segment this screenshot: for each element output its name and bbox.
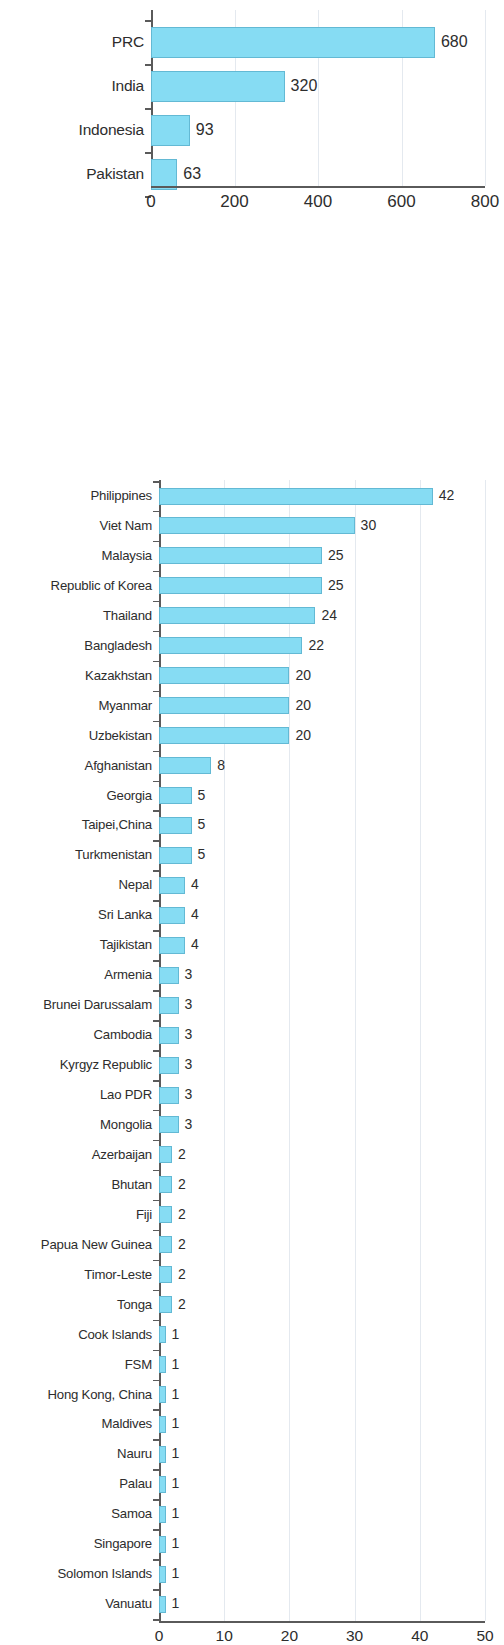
y-axis-tick: [153, 1320, 159, 1322]
x-tick-label: 800: [445, 192, 504, 212]
bar[interactable]: [159, 517, 355, 534]
y-axis-tick: [153, 1050, 159, 1052]
bar[interactable]: [159, 1057, 179, 1074]
y-axis-tick: [153, 930, 159, 932]
bar-category-label: Kazakhstan: [0, 661, 152, 691]
bar-category-label: Afghanistan: [0, 751, 152, 781]
bar-category-label: Cambodia: [0, 1020, 152, 1050]
y-axis-tick: [145, 108, 151, 110]
bar-category-label: Indonesia: [0, 108, 144, 152]
bar-value-label: 3: [185, 1080, 193, 1110]
y-axis-tick: [153, 1350, 159, 1352]
bar-value-label: 2: [178, 1140, 186, 1170]
y-axis-tick: [153, 481, 159, 483]
y-axis-tick: [153, 1380, 159, 1382]
bar-value-label: 1: [172, 1409, 180, 1439]
bar[interactable]: [159, 1476, 166, 1493]
bar[interactable]: [159, 1206, 172, 1223]
bar[interactable]: [159, 1146, 172, 1163]
bar[interactable]: [151, 115, 190, 146]
bar-category-label: Vanuatu: [0, 1589, 152, 1619]
bar-category-label: Brunei Darussalam: [0, 990, 152, 1020]
bar[interactable]: [159, 488, 433, 505]
bar-category-label: Hong Kong, China: [0, 1380, 152, 1410]
bar[interactable]: [159, 727, 289, 744]
bar-category-label: Fiji: [0, 1200, 152, 1230]
bar-value-label: 1: [172, 1320, 180, 1350]
bar[interactable]: [159, 1087, 179, 1104]
bar-category-label: Taipei,China: [0, 810, 152, 840]
bar[interactable]: [151, 71, 285, 102]
bar-value-label: 22: [308, 631, 324, 661]
bar[interactable]: [159, 1386, 166, 1403]
bar-category-label: Palau: [0, 1469, 152, 1499]
bar[interactable]: [159, 1566, 166, 1583]
bar[interactable]: [159, 757, 211, 774]
bar-value-label: 63: [183, 152, 201, 196]
bar[interactable]: [159, 997, 179, 1014]
bar[interactable]: [159, 847, 192, 864]
bar[interactable]: [151, 27, 435, 58]
bar[interactable]: [159, 577, 322, 594]
bar[interactable]: [159, 1416, 166, 1433]
bar-category-label: Viet Nam: [0, 511, 152, 541]
bar[interactable]: [159, 907, 185, 924]
bar[interactable]: [159, 937, 185, 954]
bar[interactable]: [159, 817, 192, 834]
y-axis-tick: [153, 1469, 159, 1471]
bar[interactable]: [159, 607, 315, 624]
y-axis-tick: [153, 571, 159, 573]
bar[interactable]: [159, 1116, 179, 1133]
y-axis-tick: [153, 1230, 159, 1232]
bar[interactable]: [159, 1296, 172, 1313]
x-tick-label: 0: [111, 192, 191, 212]
bar[interactable]: [159, 1446, 166, 1463]
bar[interactable]: [159, 877, 185, 894]
bar[interactable]: [159, 1356, 166, 1373]
bar-category-label: Papua New Guinea: [0, 1230, 152, 1260]
bar[interactable]: [159, 547, 322, 564]
bar[interactable]: [159, 1266, 172, 1283]
bar-value-label: 1: [172, 1439, 180, 1469]
bar-value-label: 20: [295, 661, 311, 691]
y-axis-tick: [153, 1140, 159, 1142]
bar[interactable]: [159, 667, 289, 684]
bar-category-label: Malaysia: [0, 541, 152, 571]
bar[interactable]: [159, 1326, 166, 1343]
y-axis-tick: [153, 1080, 159, 1082]
bar-category-label: Tajikistan: [0, 930, 152, 960]
bar-value-label: 2: [178, 1260, 186, 1290]
bar[interactable]: [159, 1506, 166, 1523]
y-axis-tick: [153, 751, 159, 753]
y-axis-tick: [145, 152, 151, 154]
gridline: [355, 480, 356, 1621]
bar[interactable]: [159, 967, 179, 984]
bar[interactable]: [159, 1236, 172, 1253]
bar-category-label: Mongolia: [0, 1110, 152, 1140]
bar[interactable]: [151, 159, 177, 190]
bar-category-label: Nauru: [0, 1439, 152, 1469]
y-axis-tick: [153, 721, 159, 723]
bar-value-label: 3: [185, 1020, 193, 1050]
bar-value-label: 1: [172, 1380, 180, 1410]
bar-category-label: Kyrgyz Republic: [0, 1050, 152, 1080]
bar-value-label: 25: [328, 541, 344, 571]
bar-value-label: 1: [172, 1529, 180, 1559]
y-axis-tick: [153, 900, 159, 902]
bar-category-label: Uzbekistan: [0, 721, 152, 751]
bar[interactable]: [159, 637, 302, 654]
bar[interactable]: [159, 1596, 166, 1613]
bar-value-label: 3: [185, 1110, 193, 1140]
bar-category-label: Bangladesh: [0, 631, 152, 661]
bar[interactable]: [159, 1027, 179, 1044]
bar[interactable]: [159, 1176, 172, 1193]
bar-value-label: 20: [295, 721, 311, 751]
x-tick-label: 400: [278, 192, 358, 212]
chart-top-economies: PRC680India320Indonesia93Pakistan63 0200…: [0, 0, 498, 222]
y-axis-tick: [153, 870, 159, 872]
bar-value-label: 320: [291, 64, 318, 108]
bar[interactable]: [159, 1536, 166, 1553]
bar[interactable]: [159, 787, 192, 804]
bar-value-label: 2: [178, 1230, 186, 1260]
bar[interactable]: [159, 697, 289, 714]
